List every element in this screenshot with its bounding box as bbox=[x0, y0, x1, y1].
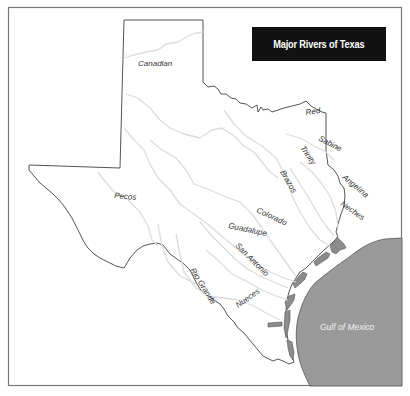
map-title: Major Rivers of Texas bbox=[273, 38, 364, 50]
texas-rivers-map: Canadian Red Sabine Trinity Brazos Angel… bbox=[0, 0, 410, 396]
label-canadian: Canadian bbox=[138, 59, 173, 68]
map-title-box: Major Rivers of Texas bbox=[252, 27, 386, 61]
label-gulf-of-mexico: Gulf of Mexico bbox=[320, 322, 375, 332]
